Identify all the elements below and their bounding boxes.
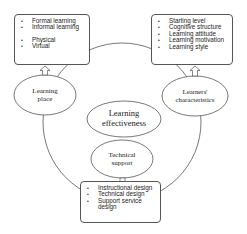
list-item: Virtual [19, 43, 85, 49]
node-label: Learners' [176, 88, 215, 96]
node-label: support [108, 159, 135, 167]
center-label: effectiveness [102, 119, 146, 129]
learning-place-node: Learning place [14, 80, 76, 110]
up-arrow-icon [190, 66, 200, 76]
node-label: place [32, 95, 57, 103]
learning-place-details-box: Formal learning Informal learning Physic… [14, 14, 90, 65]
node-label: characteristics [176, 96, 215, 104]
learning-effectiveness-node: Learning effectiveness [87, 104, 161, 134]
node-label: Learning [32, 87, 57, 95]
technical-support-details-box: Instructional design Technical design Su… [80, 181, 161, 223]
list-item: Learning style [156, 44, 228, 50]
up-arrow-icon [40, 66, 50, 75]
learners-characteristics-node: Learners' characteristics [162, 81, 228, 111]
list-item: Informal learning [19, 24, 85, 30]
technical-support-node: Technical support [91, 144, 153, 174]
node-label: Technical [108, 151, 135, 159]
list-item: Support service design [85, 198, 156, 211]
learners-characteristics-details-box: Starting level Cognitive structure Learn… [151, 14, 233, 65]
